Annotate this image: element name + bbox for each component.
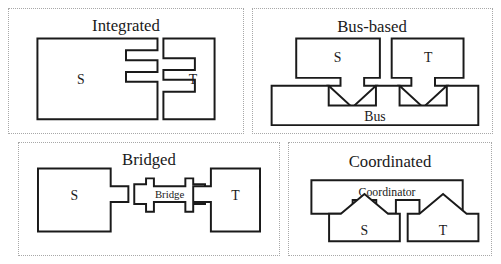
panel-bus-based: Bus-based S T Bus: [252, 8, 493, 134]
integrated-diagram: Integrated S T: [9, 9, 243, 133]
node-label-t: T: [231, 188, 240, 203]
panel-title-coordinated: Coordinated: [349, 152, 432, 171]
node-label-s: S: [71, 188, 79, 203]
node-label-s: S: [361, 223, 369, 238]
node-shape-s: [37, 39, 157, 120]
node-label-t: T: [424, 50, 433, 65]
node-shape-s: [38, 169, 128, 232]
architecture-patterns-figure: Integrated S T Bus-based S T Bus Bridged: [0, 0, 501, 264]
bus-based-diagram: Bus-based S T Bus: [253, 9, 492, 133]
coordinated-diagram: Coordinated Coordinator S T: [289, 143, 491, 255]
panel-title-integrated: Integrated: [92, 16, 160, 35]
node-label-s: S: [334, 50, 342, 65]
node-label-t: T: [189, 72, 198, 87]
node-label-s: S: [77, 72, 85, 87]
panel-coordinated: Coordinated Coordinator S T: [288, 142, 492, 256]
node-label-t: T: [439, 223, 448, 238]
panel-title-bridged: Bridged: [122, 150, 176, 169]
node-shape-t: [193, 169, 260, 232]
node-label-bus: Bus: [364, 109, 385, 124]
bridged-diagram: Bridged S Bridge T: [19, 143, 279, 255]
panel-title-bus-based: Bus-based: [337, 17, 407, 36]
node-label-bridge: Bridge: [155, 188, 185, 200]
panel-bridged: Bridged S Bridge T: [18, 142, 280, 256]
panel-integrated: Integrated S T: [8, 8, 244, 134]
